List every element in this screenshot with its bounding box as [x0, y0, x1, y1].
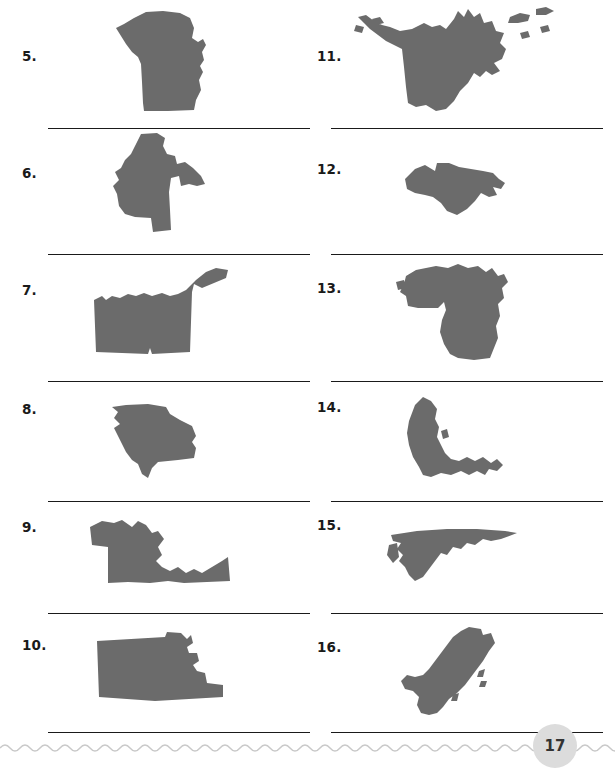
left-column: 5. 6. 7. [0, 0, 307, 740]
page-number-label: 17 [545, 737, 566, 755]
worksheet-item-16: 16. [307, 617, 614, 737]
worksheet-item-10: 10. [0, 617, 307, 737]
item-number-7: 7. [22, 282, 37, 298]
answer-line-6[interactable] [48, 254, 310, 255]
virginia-silhouette [347, 517, 562, 595]
oklahoma-silhouette [55, 264, 270, 364]
georgia-silhouette [55, 395, 270, 489]
right-column: 11. 12. 13. [307, 0, 614, 740]
worksheet-item-8: 8. [0, 385, 307, 505]
worksheet-item-11: 11. [307, 0, 614, 133]
michigan-silhouette [347, 260, 562, 365]
connecticut-silhouette [347, 155, 562, 225]
wavy-divider [0, 740, 615, 756]
answer-line-5[interactable] [48, 128, 310, 129]
worksheet-item-9: 9. [0, 505, 307, 617]
item-number-14: 14. [317, 399, 342, 415]
florida-silhouette [347, 393, 562, 489]
answer-line-11[interactable] [331, 128, 603, 129]
worksheet-item-13: 13. [307, 258, 614, 385]
answer-line-13[interactable] [331, 381, 603, 382]
answer-line-8[interactable] [48, 501, 310, 502]
maryland-silhouette [55, 513, 270, 599]
page-number-badge: 17 [533, 724, 577, 768]
missouri-silhouette [55, 6, 270, 118]
item-number-5: 5. [22, 48, 37, 64]
worksheet-item-12: 12. [307, 133, 614, 258]
minnesota-silhouette [55, 133, 270, 241]
item-number-16: 16. [317, 639, 342, 655]
california-silhouette [347, 623, 562, 721]
item-number-12: 12. [317, 161, 342, 177]
worksheet-item-15: 15. [307, 505, 614, 617]
item-number-8: 8. [22, 401, 37, 417]
item-number-13: 13. [317, 280, 342, 296]
page-footer: 17 [0, 726, 615, 770]
worksheet-page: 5. 6. 7. [0, 0, 615, 770]
kansas-silhouette [55, 627, 270, 707]
worksheet-item-5: 5. [0, 0, 307, 133]
answer-line-7[interactable] [48, 381, 310, 382]
answer-line-15[interactable] [331, 613, 603, 614]
item-number-10: 10. [22, 637, 47, 653]
item-number-15: 15. [317, 517, 342, 533]
worksheet-item-14: 14. [307, 385, 614, 505]
worksheet-item-7: 7. [0, 258, 307, 385]
answer-line-12[interactable] [331, 254, 603, 255]
alaska-silhouette [347, 4, 562, 118]
answer-line-9[interactable] [48, 613, 310, 614]
worksheet-item-6: 6. [0, 133, 307, 258]
item-number-6: 6. [22, 165, 37, 181]
item-number-11: 11. [317, 48, 342, 64]
answer-line-14[interactable] [331, 501, 603, 502]
item-number-9: 9. [22, 519, 37, 535]
